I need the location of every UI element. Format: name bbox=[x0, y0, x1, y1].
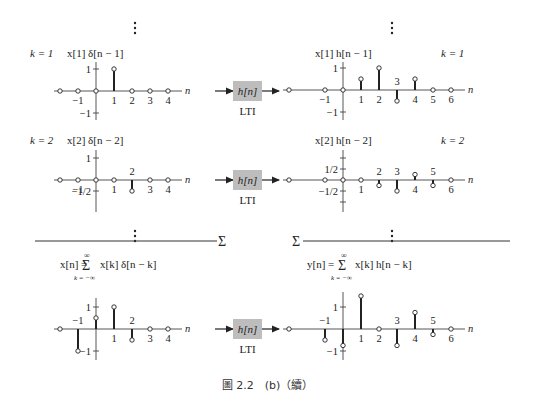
x-tick-label: −1 bbox=[72, 95, 83, 106]
stem-marker bbox=[449, 178, 453, 182]
stem-marker bbox=[359, 178, 363, 182]
stem-marker bbox=[94, 178, 98, 182]
stem-marker bbox=[94, 316, 98, 320]
output-title-row1: x[1] h[n − 1] bbox=[315, 47, 372, 59]
axis-label-n: n bbox=[185, 323, 190, 334]
y-tick-label: −1 bbox=[327, 346, 338, 357]
svg-text:x[k] δ[n − k]: x[k] δ[n − k] bbox=[100, 258, 156, 270]
x-tick-label: 3 bbox=[394, 315, 399, 326]
output-sum-formula: y[n] = ∞ Σ k = −∞ x[k] h[n − k] bbox=[307, 251, 412, 282]
stem-marker bbox=[413, 77, 417, 81]
stem-marker bbox=[287, 327, 291, 331]
x-tick-label: 2 bbox=[376, 94, 381, 105]
stem-marker bbox=[323, 88, 327, 92]
x-tick-label: 6 bbox=[448, 333, 453, 344]
input-sum-formula: x[n] = ∞ Σ k = −∞ x[k] δ[n − k] bbox=[60, 251, 156, 282]
axis-label-n: n bbox=[468, 323, 473, 334]
stem-marker bbox=[130, 189, 134, 193]
stem-plot-3: n1−1/2−11234 bbox=[54, 150, 190, 212]
axis-label-n: n bbox=[468, 174, 473, 185]
stem-marker bbox=[58, 178, 62, 182]
k-label-row1: k = 1 bbox=[30, 47, 53, 59]
stem-marker bbox=[287, 178, 291, 182]
x-tick-label: 1 bbox=[111, 95, 116, 106]
stem-marker bbox=[76, 349, 80, 353]
stem-marker bbox=[287, 88, 291, 92]
stem-marker bbox=[58, 327, 62, 331]
k-label-row2: k = 2 bbox=[30, 134, 54, 146]
x-tick-label: 4 bbox=[412, 94, 418, 105]
stem-plot-4: n1/2−1/2123456 bbox=[283, 150, 473, 212]
y-tick-label: 1 bbox=[333, 63, 338, 74]
x-tick-label: 4 bbox=[165, 184, 171, 195]
y-tick-label: −1 bbox=[80, 346, 91, 357]
svg-text:Σ: Σ bbox=[338, 258, 346, 273]
stem-plots: n1−1−11234n1−1−1123456n1−1/2−11234n1/2−1… bbox=[54, 62, 473, 360]
stem-marker bbox=[413, 310, 417, 314]
lti-system-row2: h[n] LTI bbox=[215, 170, 279, 206]
y-tick-label: 1 bbox=[86, 153, 91, 164]
axis-label-n: n bbox=[185, 174, 190, 185]
stem-marker bbox=[130, 89, 134, 93]
y-tick-label: −1 bbox=[80, 108, 91, 119]
k-label-row2-right: k = 2 bbox=[441, 134, 465, 146]
x-tick-label: 1 bbox=[111, 184, 116, 195]
x-tick-label: 4 bbox=[165, 333, 171, 344]
x-tick-label: 2 bbox=[129, 315, 134, 326]
stem-marker bbox=[76, 89, 80, 93]
axis-label-n: n bbox=[468, 84, 473, 95]
stem-marker bbox=[166, 327, 170, 331]
stem-marker bbox=[431, 88, 435, 92]
stem-marker bbox=[431, 332, 435, 336]
x-tick-label: 4 bbox=[165, 95, 171, 106]
x-tick-label: 2 bbox=[376, 166, 381, 177]
x-tick-label: 3 bbox=[394, 76, 399, 87]
stem-marker bbox=[148, 327, 152, 331]
stem-plot-5: n1−1−11234 bbox=[54, 298, 190, 360]
axis-label-n: n bbox=[185, 85, 190, 96]
x-tick-label: 5 bbox=[430, 166, 435, 177]
x-tick-label: 3 bbox=[394, 166, 399, 177]
stem-marker bbox=[94, 89, 98, 93]
x-tick-label: 3 bbox=[147, 184, 152, 195]
stem-plot-2: n1−1−1123456 bbox=[283, 62, 473, 120]
x-tick-label: 1 bbox=[358, 184, 363, 195]
output-title-row2: x[2] h[n − 2] bbox=[315, 134, 372, 146]
x-tick-label: 3 bbox=[147, 333, 152, 344]
x-tick-label: −1 bbox=[72, 315, 83, 326]
stem-marker bbox=[449, 88, 453, 92]
x-tick-label: 6 bbox=[448, 94, 453, 105]
x-tick-label: 1 bbox=[358, 94, 363, 105]
figure-caption: 圖 2.2 (b)（續） bbox=[0, 376, 535, 392]
lti-system-row3: h[n] LTI bbox=[215, 319, 279, 355]
stem-marker bbox=[112, 305, 116, 309]
sum-symbol-right: Σ bbox=[292, 234, 300, 249]
svg-text:x[k] h[n − k]: x[k] h[n − k] bbox=[355, 258, 412, 270]
svg-text:h[n]: h[n] bbox=[238, 85, 258, 97]
x-tick-label: 2 bbox=[129, 95, 134, 106]
stem-marker bbox=[148, 89, 152, 93]
x-tick-label: −1 bbox=[72, 184, 83, 195]
x-tick-label: 1 bbox=[111, 333, 116, 344]
y-tick-label: −1/2 bbox=[319, 186, 338, 197]
stem-marker bbox=[148, 178, 152, 182]
stem-marker bbox=[449, 327, 453, 331]
svg-text:LTI: LTI bbox=[239, 343, 255, 355]
x-tick-label: 2 bbox=[129, 166, 134, 177]
stem-marker bbox=[112, 67, 116, 71]
stem-marker bbox=[359, 294, 363, 298]
stem-marker bbox=[377, 327, 381, 331]
svg-text:h[n]: h[n] bbox=[238, 323, 258, 335]
stem-plot-6: n1−1−1123456 bbox=[283, 292, 473, 360]
stem-marker bbox=[76, 178, 80, 182]
stem-marker bbox=[323, 338, 327, 342]
svg-text:LTI: LTI bbox=[239, 194, 255, 206]
stem-marker bbox=[377, 183, 381, 187]
x-tick-label: −1 bbox=[319, 315, 330, 326]
y-tick-label: 1 bbox=[86, 64, 91, 75]
x-tick-label: 4 bbox=[412, 333, 418, 344]
input-title-row2: x[2] δ[n − 2] bbox=[67, 134, 123, 146]
stem-marker bbox=[395, 189, 399, 193]
input-title-row1: x[1] δ[n − 1] bbox=[67, 47, 123, 59]
x-tick-label: 2 bbox=[376, 333, 381, 344]
